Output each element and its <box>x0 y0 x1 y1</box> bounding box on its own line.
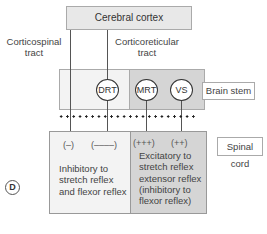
cerebral-cortex-box: Cerebral cortex <box>66 6 192 30</box>
mrt-nucleus: MRT <box>135 79 158 101</box>
drt-label: DRT <box>98 85 116 95</box>
corticospinal-effect-symbol: (–) <box>63 140 74 150</box>
brain-stem-label: Brain stem <box>206 85 251 96</box>
brain-stem-spinal-boundary-dotted-line <box>58 115 198 118</box>
vs-effect-symbol: (++) <box>171 138 188 148</box>
excitatory-line: stretch reflex <box>139 161 201 172</box>
mrt-label: MRT <box>137 85 156 95</box>
drt-effect-symbol: (––––) <box>91 140 117 150</box>
excitatory-line: (inhibitory to <box>139 184 201 195</box>
corticospinal-line1: Corticospinal <box>4 36 64 47</box>
vs-nucleus: VS <box>170 79 193 101</box>
inhibitory-line: Inhibitory to <box>59 163 127 174</box>
excitatory-line: extensor reflex <box>139 173 201 184</box>
brain-stem-tag: Brain stem <box>202 82 255 100</box>
inhibitory-description: Inhibitory to stretch reflex and flexor … <box>59 163 127 197</box>
corticospinal-line <box>70 30 71 138</box>
corticoreticular-line2: tract <box>112 47 182 58</box>
inhibitory-line: stretch reflex <box>59 174 127 185</box>
cerebral-cortex-label: Cerebral cortex <box>95 12 163 23</box>
corticospinal-line2: tract <box>4 47 64 58</box>
excitatory-line: flexor reflex) <box>139 195 201 206</box>
vs-label: VS <box>175 85 187 95</box>
spinal-cord-label: Spinal cord <box>227 141 253 169</box>
inhibitory-line: and flexor reflex <box>59 186 127 197</box>
spinal-cord-tag: Spinal cord <box>217 137 263 156</box>
drt-nucleus: DRT <box>96 79 119 101</box>
corticoreticular-tract-label: Corticoreticular tract <box>112 36 182 58</box>
corticospinal-tract-label: Corticospinal tract <box>4 36 64 58</box>
excitatory-description: Excitatory to stretch reflex extensor re… <box>139 150 201 206</box>
panel-letter: D <box>9 182 16 192</box>
corticoreticular-line1: Corticoreticular <box>112 36 182 47</box>
mrt-effect-symbol: (+++) <box>133 138 155 148</box>
excitatory-line: Excitatory to <box>139 150 201 161</box>
panel-label-d: D <box>5 180 20 195</box>
